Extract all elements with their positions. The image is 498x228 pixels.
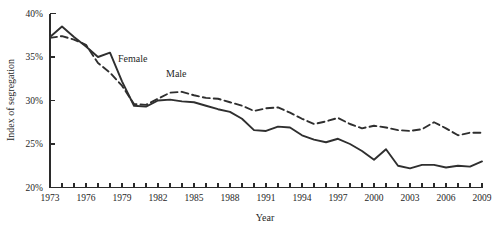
series-label-male: Male [166,68,187,79]
x-axis-tick-label: 1976 [77,193,96,203]
x-axis-tick-label: 1991 [257,193,276,203]
y-axis-tick-labels: 40%35%30%25%20% [26,9,44,193]
x-axis-tick-label: 1979 [113,193,132,203]
x-axis-tick-label: 1994 [293,193,312,203]
y-axis-tick-label: 20% [26,183,44,193]
x-axis-title: Year [256,212,275,223]
series-inline-labels: FemaleMale [118,53,187,79]
y-axis-ticks [50,14,55,188]
x-axis-tick-label: 1997 [329,193,348,203]
chart-canvas: 40%35%30%25%20% 197319761979198219851988… [0,0,498,228]
y-axis-tick-label: 30% [26,96,44,106]
data-series-group [50,27,482,169]
y-axis-tick-label: 35% [26,52,44,62]
series-label-female: Female [118,53,148,64]
segregation-index-line-chart: 40%35%30%25%20% 197319761979198219851988… [0,0,498,228]
y-axis-tick-label: 40% [26,9,44,19]
y-axis-title: Index of segregation [5,59,16,141]
x-axis-tick-label: 2009 [473,193,492,203]
x-axis-tick-label: 2003 [401,193,420,203]
x-axis-tick-labels: 1973197619791982198519881991199419972000… [41,193,492,203]
x-axis-ticks [50,183,482,188]
series-line-female [50,27,482,169]
series-line-male [50,36,482,135]
x-axis-tick-label: 2006 [437,193,456,203]
x-axis-tick-label: 1982 [149,193,168,203]
y-axis-tick-label: 25% [26,139,44,149]
x-axis-tick-label: 2000 [365,193,384,203]
x-axis-tick-label: 1973 [41,193,60,203]
x-axis-tick-label: 1988 [221,193,240,203]
x-axis-tick-label: 1985 [185,193,204,203]
